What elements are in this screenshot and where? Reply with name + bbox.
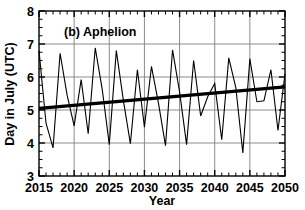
x-tick-label: 2040 [201, 181, 229, 195]
x-axis-title: Year [149, 194, 176, 208]
x-tick-label: 2035 [166, 181, 194, 195]
aphelion-chart-figure: 345678 20152020202520302035204020452050 … [0, 0, 305, 210]
chart-canvas: 345678 20152020202520302035204020452050 … [0, 0, 305, 210]
x-tick-label: 2045 [236, 181, 264, 195]
y-axis-title: Day in July (UTC) [3, 42, 17, 146]
x-tick-label: 2050 [271, 181, 299, 195]
y-tick-label: 6 [27, 71, 34, 85]
y-tick-label: 7 [27, 38, 34, 52]
y-tick-label: 4 [27, 137, 34, 151]
y-tick-label: 8 [27, 5, 34, 19]
x-tick-label: 2025 [95, 181, 123, 195]
x-tick-label: 2020 [60, 181, 88, 195]
chart-background [0, 0, 305, 210]
x-tick-label: 2030 [131, 181, 159, 195]
panel-label: (b) Aphelion [64, 25, 136, 39]
x-tick-label: 2015 [25, 181, 53, 195]
y-tick-label: 5 [27, 104, 34, 118]
